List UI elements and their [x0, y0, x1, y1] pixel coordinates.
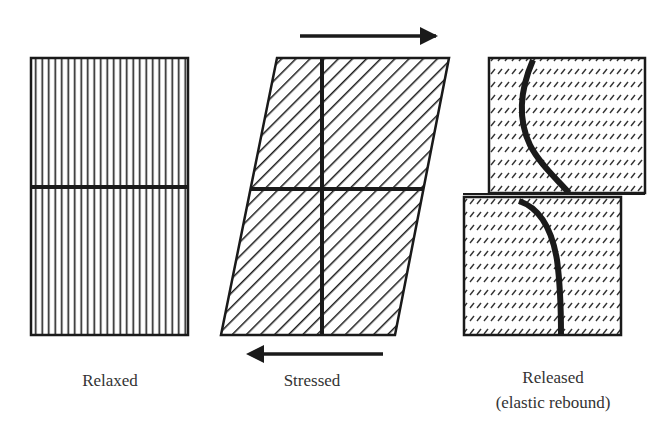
stressed-panel: [221, 27, 449, 363]
released-panel: [463, 58, 645, 335]
released-label: Released: [483, 366, 623, 390]
elastic-rebound-label: (elastic rebound): [473, 391, 633, 415]
relaxed-panel: [31, 58, 188, 335]
relaxed-label: Relaxed: [60, 369, 160, 393]
arrow-left-head: [246, 345, 264, 363]
arrow-right-head: [420, 27, 438, 45]
stressed-label: Stressed: [262, 369, 362, 393]
